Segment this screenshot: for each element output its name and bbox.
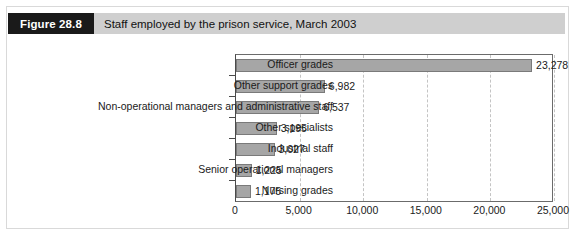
x-axis-labels-group: 05,00010,00015,00020,00025,000 [235, 204, 553, 220]
bar-value-label: 23,278 [532, 55, 568, 76]
category-label: Officer grades [8, 54, 333, 75]
x-axis-label: 15,000 [410, 204, 442, 216]
chart-area: 23,2786,9826,5373,1953,0271,2251,175 Off… [8, 44, 565, 224]
figure-number-badge: Figure 28.8 [8, 13, 94, 34]
category-label: Industrial staff [8, 138, 333, 159]
figure-root: Figure 28.8 Staff employed by the prison… [0, 0, 577, 238]
category-label: Nursing grades [8, 180, 333, 201]
x-axis-label: 10,000 [346, 204, 378, 216]
figure-title: Staff employed by the prison service, Ma… [104, 13, 356, 34]
category-label: Other specialists [8, 117, 333, 138]
x-axis-label: 25,000 [537, 204, 569, 216]
gridline [554, 55, 555, 201]
category-label: Non-operational managers and administrat… [8, 96, 333, 117]
category-label: Other support grades [8, 75, 333, 96]
x-axis-label: 20,000 [473, 204, 505, 216]
x-axis-label: 5,000 [285, 204, 311, 216]
x-axis-label: 0 [232, 204, 238, 216]
category-label: Senior operational managers [8, 159, 333, 180]
